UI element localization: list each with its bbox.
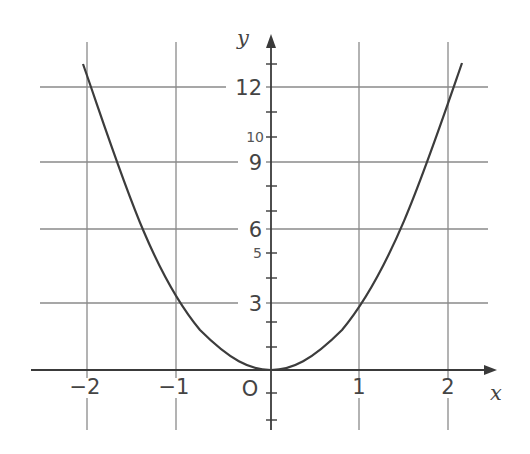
y-label-12: 12	[235, 76, 262, 100]
y-label-9: 9	[249, 151, 262, 175]
y-axis-arrow-icon	[266, 34, 276, 48]
y-major-labels: 12 9 6 3	[235, 76, 262, 316]
grid-horizontal	[40, 87, 488, 303]
y-axis-label: y	[236, 26, 250, 50]
y-label-5: 5	[253, 245, 262, 261]
parabola-curve	[83, 63, 462, 370]
parabola-chart: 12 9 6 3 10 5 −2 −1 1 2 O y x	[0, 0, 530, 454]
y-label-3: 3	[249, 292, 262, 316]
x-label-neg2: −2	[70, 375, 101, 399]
origin-label: O	[242, 377, 259, 401]
y-label-6: 6	[249, 218, 262, 242]
x-label-2: 2	[441, 375, 454, 399]
grid-vertical	[87, 42, 448, 430]
x-label-neg1: −1	[159, 375, 190, 399]
x-label-1: 1	[352, 375, 365, 399]
x-tick-labels: −2 −1 1 2	[70, 375, 455, 399]
y-label-10: 10	[246, 129, 264, 145]
x-axis-arrow-icon	[484, 365, 497, 375]
label-backgrounds	[226, 74, 266, 316]
x-axis-label: x	[490, 381, 502, 405]
